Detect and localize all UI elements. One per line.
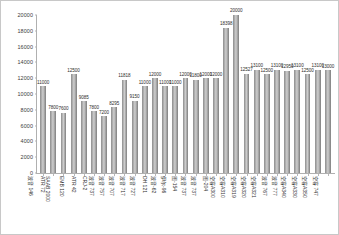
- bar: [111, 107, 117, 173]
- bar: [101, 116, 107, 173]
- bar-slot: 11818: [119, 15, 129, 173]
- bar: [81, 101, 87, 173]
- bar-slot: 12500: [302, 15, 312, 173]
- bar-series: 1100078007600125009085780072008295118189…: [37, 15, 334, 173]
- bar-value-label: 9085: [79, 96, 89, 101]
- bar-slot: 13000: [323, 15, 333, 173]
- bar-slot: 8295: [109, 15, 119, 173]
- y-axis-tick-label: 16000: [18, 44, 34, 50]
- bar: [142, 86, 148, 173]
- bar-slot: 7800: [89, 15, 99, 173]
- bar-value-label: 9150: [130, 95, 140, 100]
- bar: [193, 80, 199, 173]
- x-axis-tick-label: CRJ-2: [82, 176, 87, 190]
- bar: [132, 101, 138, 173]
- bar-slot: 12500: [69, 15, 79, 173]
- x-axis-tick-label: 空客A320: [241, 176, 246, 198]
- bar: [91, 111, 97, 173]
- bar-slot: 11000: [140, 15, 150, 173]
- bar: [315, 70, 321, 173]
- bar-value-label: 20000: [230, 9, 243, 14]
- x-axis-tick-label: 波音 777: [272, 176, 277, 196]
- bar: [203, 78, 209, 173]
- bar: [122, 80, 128, 173]
- bar-slot: 12500: [262, 15, 272, 173]
- bar-slot: 11000: [160, 15, 170, 173]
- bar-slot: 7600: [58, 15, 68, 173]
- bar-slot: 9150: [130, 15, 140, 173]
- x-axis-tick-label: 空客A330: [292, 176, 297, 198]
- bar-value-label: 7600: [58, 107, 68, 112]
- bar: [50, 111, 56, 173]
- x-axis-tick-label: 图-154: [173, 176, 178, 191]
- x-axis-tick-label: 空客A350: [302, 176, 307, 198]
- x-axis-tick-label: ATR 42: [70, 176, 75, 193]
- bar: [325, 70, 331, 173]
- bar-slot: 9085: [79, 15, 89, 173]
- bar: [183, 78, 189, 173]
- y-axis-tick-label: 8000: [21, 107, 33, 113]
- bar: [305, 74, 311, 173]
- bar-slot: 12000: [150, 15, 160, 173]
- bar: [274, 70, 280, 173]
- x-axis-labels: 波音 146ATR 72SAAB 2000EMB 120ATR 42CRJ-2波…: [37, 175, 334, 233]
- x-axis-tick-label: 伊尔-96: [162, 176, 167, 193]
- bar: [71, 74, 77, 173]
- y-axis-tick-label: 10000: [18, 91, 34, 97]
- bar: [172, 86, 178, 173]
- x-axis-tick-label: 波音-62: [152, 176, 157, 193]
- y-axis-tick-label: 2000: [21, 154, 33, 160]
- bar: [233, 15, 239, 173]
- x-axis-tick-label: EMB 120: [58, 176, 63, 197]
- bar: [244, 74, 250, 173]
- x-axis-tick-label: 波音 717: [120, 176, 125, 196]
- x-axis-tick-label: 空客A319: [231, 176, 236, 198]
- y-axis-tick-label: 4000: [21, 138, 33, 144]
- x-axis-tick-label: 波音 737: [89, 176, 94, 196]
- x-axis-tick-label: 波音 737: [181, 176, 186, 196]
- bar-slot: 20000: [231, 15, 241, 173]
- bar: [61, 113, 67, 173]
- x-axis-tick-label: 空客A321: [251, 176, 256, 198]
- bar-slot: 13100: [252, 15, 262, 173]
- bar-slot: 12527: [241, 15, 251, 173]
- x-axis-tick-label: 空客A310: [221, 176, 226, 198]
- bar-slot: 18398: [221, 15, 231, 173]
- bar-slot: 7800: [48, 15, 58, 173]
- y-axis-tick-label: 14000: [18, 59, 34, 65]
- x-axis-tick-label: 波音 146: [28, 176, 33, 196]
- bar-slot: 12000: [211, 15, 221, 173]
- x-axis-tick-label: 图-204: [203, 176, 208, 191]
- y-axis-tick-label: 6000: [21, 123, 33, 129]
- x-axis-tick-label: 波音 757: [99, 176, 104, 196]
- x-axis-tick-mark: [328, 174, 329, 176]
- x-axis-tick-mark: [53, 174, 54, 176]
- bar-slot: 7200: [99, 15, 109, 173]
- x-axis-tick-mark: [226, 174, 227, 176]
- bar-slot: 13100: [292, 15, 302, 173]
- bar-slot: 11000: [170, 15, 180, 173]
- bar-slot: 11000: [38, 15, 48, 173]
- bar-slot: 13100: [313, 15, 323, 173]
- x-axis-tick-label: 波音 727: [130, 176, 135, 196]
- bar-value-label: 7200: [99, 111, 109, 116]
- bar: [162, 86, 168, 173]
- x-axis-tick-label: 空客A300: [210, 176, 215, 198]
- bar-slot: 12000: [201, 15, 211, 173]
- x-axis-tick-label: 波音 707: [110, 176, 115, 196]
- bar-slot: 12000: [180, 15, 190, 173]
- x-axis-tick-label: DH 121: [141, 176, 146, 193]
- bar-slot: 13100: [272, 15, 282, 173]
- x-axis-tick-label: 波音 767: [262, 176, 267, 196]
- y-axis: 0200040006000800010000120001400016000180…: [1, 15, 37, 173]
- x-axis-tick-label: SAAB 2000: [45, 176, 50, 202]
- bar-value-label: 13000: [322, 65, 335, 70]
- bar: [213, 78, 219, 173]
- y-axis-tick-label: 18000: [18, 28, 34, 34]
- plot-area: 1100078007600125009085780072008295118189…: [37, 15, 334, 173]
- x-axis-tick-label: 波音 737: [191, 176, 196, 196]
- bar-slot: 12950: [282, 15, 292, 173]
- bar: [254, 70, 260, 173]
- y-axis-tick-label: 20000: [18, 12, 34, 18]
- bar: [223, 28, 229, 173]
